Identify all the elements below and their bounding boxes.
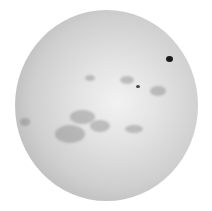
plage-region <box>55 125 85 143</box>
solar-disk <box>15 10 198 201</box>
plage-region <box>125 125 143 133</box>
plage-region <box>20 118 30 126</box>
sunspot <box>166 56 173 62</box>
plage-region <box>150 86 166 96</box>
plage-region <box>85 75 95 81</box>
sunspot <box>136 85 140 88</box>
plage-region <box>90 120 110 132</box>
plage-region <box>120 76 134 84</box>
